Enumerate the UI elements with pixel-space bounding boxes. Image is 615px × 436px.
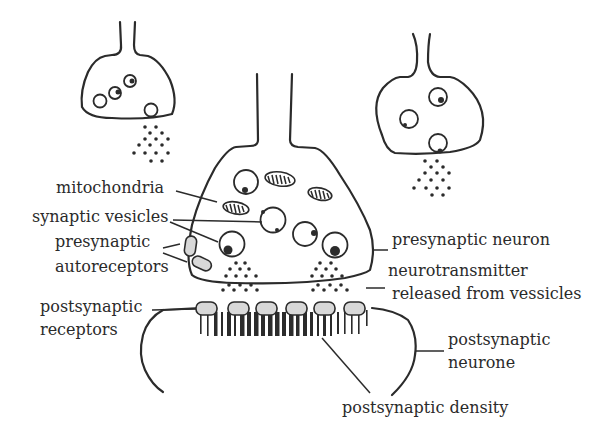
label-mitochondria: mitochondria — [56, 178, 165, 197]
label-postsynaptic-receptors-2: receptors — [40, 320, 118, 339]
mitochondrion — [307, 186, 333, 203]
presynaptic-autoreceptor — [190, 254, 213, 272]
presynaptic-autoreceptor — [184, 235, 198, 256]
label-neurotransmitter-1: neurotransmitter — [388, 261, 528, 280]
synapse-diagram: mitochondria synaptic vesicles presynapt… — [0, 0, 615, 436]
label-presynaptic-neuron: presynaptic neuron — [392, 230, 550, 249]
neurotransmitter-dots-left — [132, 125, 170, 163]
label-presynaptic-autoreceptors-1: presynaptic — [55, 232, 150, 251]
label-postsynaptic-neurone-2: neurone — [448, 353, 515, 372]
label-presynaptic-autoreceptors-2: autoreceptors — [55, 257, 169, 276]
label-synaptic-vesicles: synaptic vesicles — [32, 207, 169, 226]
label-postsynaptic-neurone-1: postsynaptic — [448, 330, 550, 349]
mitochondrion — [264, 170, 296, 188]
right-presynaptic-terminal — [376, 34, 483, 197]
mitochondrion — [222, 200, 250, 216]
postsynaptic-density — [200, 310, 368, 336]
postsynaptic-neurone — [141, 302, 416, 395]
neurotransmitter-dots-right — [412, 159, 451, 197]
central-presynaptic-neuron — [184, 74, 373, 283]
left-presynaptic-terminal — [82, 22, 175, 163]
label-postsynaptic-receptors-1: postsynaptic — [40, 297, 142, 316]
neurotransmitter-dots-cleft — [221, 261, 349, 292]
label-neurotransmitter-2: released from vessicles — [392, 284, 582, 303]
label-postsynaptic-density: postsynaptic density — [342, 398, 508, 417]
